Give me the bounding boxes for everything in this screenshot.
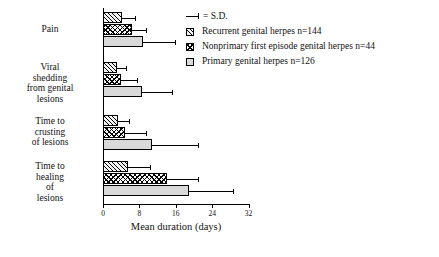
legend-swatch-primary-icon xyxy=(186,58,194,66)
legend-row-primary: Primary genital herpes n=126 xyxy=(186,55,438,68)
error-bar-line xyxy=(142,92,172,93)
legend-swatch-recurrent-icon xyxy=(186,28,194,36)
x-axis-title: Mean duration (days) xyxy=(103,221,249,232)
error-bar-cap xyxy=(137,78,138,83)
error-bar-line xyxy=(152,145,197,146)
category-label-viral-shedding: Viral shedding from genital lesions xyxy=(4,62,96,104)
bar xyxy=(103,36,143,47)
bar-chart: Pain Viral shedding from genital lesions… xyxy=(0,0,439,257)
bar xyxy=(103,74,121,85)
error-bar-cap xyxy=(198,143,199,148)
bar xyxy=(103,127,125,138)
x-tick-8 xyxy=(139,204,140,208)
bar xyxy=(103,24,132,35)
error-bar-cap xyxy=(135,16,136,21)
error-bar-line xyxy=(122,18,135,19)
error-bar-line xyxy=(189,191,232,192)
category-label-crusting: Time to crusting of lesions xyxy=(4,116,96,148)
x-tick-32 xyxy=(249,204,250,208)
bar xyxy=(103,173,167,184)
sd-bar-cap-icon xyxy=(198,13,199,19)
error-bar-cap xyxy=(172,90,173,95)
error-bar-line xyxy=(128,167,150,168)
x-tick-label-8: 8 xyxy=(129,209,149,218)
x-tick-16 xyxy=(176,204,177,208)
bar xyxy=(103,62,117,73)
legend-swatch-nonprimary-icon xyxy=(186,43,194,51)
x-tick-24 xyxy=(212,204,213,208)
error-bar-cap xyxy=(198,177,199,182)
bar xyxy=(103,185,189,196)
bar xyxy=(103,86,142,97)
legend: = S.D. Recurrent genital herpes n=144 No… xyxy=(186,10,438,70)
error-bar-line xyxy=(118,121,129,122)
bar xyxy=(103,12,122,23)
bar xyxy=(103,139,152,150)
bar xyxy=(103,161,128,172)
error-bar-cap xyxy=(129,119,130,124)
bar xyxy=(103,115,118,126)
error-bar-cap xyxy=(146,131,147,136)
category-label-healing: Time to healing of lesions xyxy=(4,161,96,203)
error-bar-line xyxy=(167,179,199,180)
legend-label-recurrent: Recurrent genital herpes n=144 xyxy=(202,25,322,38)
error-bar-cap xyxy=(126,66,127,71)
error-bar-line xyxy=(132,30,146,31)
error-bar-line xyxy=(121,80,136,81)
legend-row-nonprimary: Nonprimary first episode genital herpes … xyxy=(186,40,438,53)
legend-row-recurrent: Recurrent genital herpes n=144 xyxy=(186,25,438,38)
x-tick-label-0: 0 xyxy=(93,209,113,218)
error-bar-cap xyxy=(175,40,176,45)
error-bar-line xyxy=(117,68,126,69)
x-tick-0 xyxy=(103,204,104,208)
x-tick-label-24: 24 xyxy=(202,209,222,218)
legend-label-nonprimary: Nonprimary first episode genital herpes … xyxy=(202,40,375,53)
x-tick-label-16: 16 xyxy=(166,209,186,218)
error-bar-cap xyxy=(233,189,234,194)
error-bar-line xyxy=(143,42,175,43)
legend-label-sd: = S.D. xyxy=(203,10,228,23)
error-bar-line xyxy=(125,133,146,134)
category-label-pain: Pain xyxy=(4,24,96,35)
legend-row-sd: = S.D. xyxy=(186,10,438,23)
error-bar-cap xyxy=(150,165,151,170)
error-bar-cap xyxy=(146,28,147,33)
legend-label-primary: Primary genital herpes n=126 xyxy=(202,55,315,68)
x-tick-label-32: 32 xyxy=(239,209,259,218)
